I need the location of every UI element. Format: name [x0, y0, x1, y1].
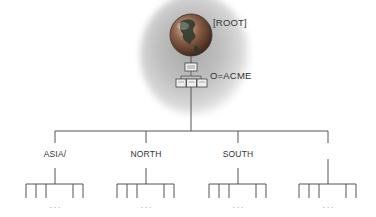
root-label: [ROOT] [213, 17, 247, 28]
tree-lines [0, 0, 376, 217]
directory-tree-diagram: [ROOT] O=ACME ASIA/ NORTH SOUTH ... ... … [0, 0, 376, 217]
organization-label: O=ACME [210, 70, 252, 81]
subtree-unlabeled [299, 184, 356, 198]
subtree-north [117, 184, 174, 198]
ellipsis-unlabeled: ... [323, 201, 336, 210]
subtree-asia [26, 184, 83, 198]
server-hierarchy-icon [176, 63, 207, 87]
branch-label-north: NORTH [130, 149, 161, 159]
ellipsis-north: ... [141, 201, 154, 210]
globe-icon [170, 14, 212, 63]
branch-label-asia: ASIA/ [44, 149, 67, 159]
ellipsis-asia: ... [50, 201, 63, 210]
subtree-south [209, 184, 266, 198]
ellipsis-south: ... [233, 201, 246, 210]
branch-label-south: SOUTH [223, 149, 254, 159]
